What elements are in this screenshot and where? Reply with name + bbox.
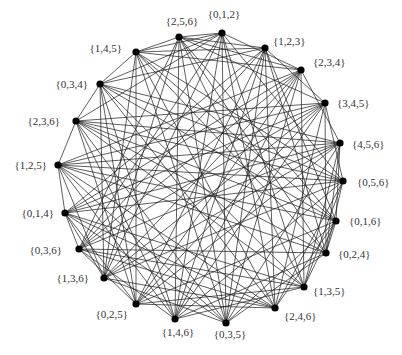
graph-edge (65, 213, 226, 323)
vertex-label: {0,5,6} (357, 176, 390, 188)
graph-edge (179, 33, 222, 37)
graph-vertex (100, 274, 107, 281)
graph-vertex (297, 66, 304, 73)
graph-vertex (322, 249, 329, 256)
vertex-label: {1,4,5} (89, 42, 122, 54)
graph-vertex (332, 217, 339, 224)
graph-vertex (336, 139, 343, 146)
vertex-label: {1,2,3} (273, 35, 306, 47)
graph-vertex (61, 209, 68, 216)
graph-edge (79, 37, 179, 249)
graph-vertex (72, 117, 79, 124)
vertex-label: {1,2,5} (14, 159, 47, 171)
graph-edge (100, 33, 222, 84)
vertex-label: {0,3,4} (55, 78, 88, 90)
graph-vertex (175, 33, 182, 40)
graph-vertex (261, 44, 268, 51)
graph-edge (65, 213, 136, 304)
vertex-label: {0,2,4} (338, 248, 371, 260)
graph-vertex (171, 315, 178, 322)
vertex-label: {0,1,6} (349, 215, 382, 227)
vertex-label: {0,1,2} (208, 8, 241, 20)
vertex-label: {1,4,6} (162, 326, 195, 338)
graph-edge (65, 213, 304, 287)
graph-vertex (75, 245, 82, 252)
graph-diagram: {0,1,2}{1,2,3}{2,3,4}{3,4,5}{4,5,6}{0,5,… (0, 0, 402, 355)
graph-edge (58, 165, 65, 213)
vertex-label: {4,5,6} (352, 138, 385, 150)
graph-edge (304, 143, 340, 287)
graph-vertex (132, 300, 139, 307)
graph-edge (179, 37, 226, 323)
graph-edge (79, 33, 222, 249)
vertex-label: {2,3,4} (313, 56, 346, 68)
graph-edge (136, 37, 179, 52)
graph-vertex (218, 29, 225, 36)
graph-vertex (271, 304, 278, 311)
vertex-label: {0,2,5} (95, 308, 128, 320)
graph-edge (65, 48, 265, 213)
graph-vertex (339, 177, 346, 184)
graph-edge (58, 121, 76, 165)
graph-edge (136, 48, 265, 52)
vertex-label: {0,1,4} (21, 207, 54, 219)
vertex-label: {2,5,6} (166, 15, 199, 27)
graph-vertex (54, 161, 61, 168)
vertex-label: {2,4,6} (284, 310, 317, 322)
graph-vertex (222, 319, 229, 326)
vertex-label: {1,3,6} (56, 272, 89, 284)
graph-edge (104, 33, 222, 278)
graph-edge (65, 213, 104, 278)
vertex-label: {3,4,5} (337, 97, 370, 109)
graph-vertex (300, 283, 307, 290)
graph-vertex (132, 48, 139, 55)
graph-edge (104, 181, 343, 278)
vertex-label: {0,3,6} (29, 244, 62, 256)
vertex-label: {0,3,5} (214, 328, 247, 340)
graph-vertex (321, 99, 328, 106)
vertex-label: {1,3,5} (313, 285, 346, 297)
graph-vertex (96, 80, 103, 87)
graph-edge (304, 221, 336, 287)
graph-edge (76, 121, 226, 323)
graph-edge (100, 52, 136, 84)
vertex-label: {2,3,6} (27, 115, 60, 127)
graph-edge (226, 48, 265, 323)
graph-edge (265, 48, 326, 253)
graph-edge (100, 84, 343, 181)
